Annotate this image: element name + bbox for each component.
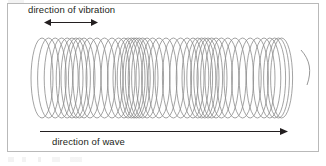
spring-coil: [51, 38, 73, 118]
spring-coil: [61, 38, 83, 118]
spring-coil: [210, 38, 232, 118]
spring-coil: [44, 38, 66, 118]
spring-coil: [162, 38, 184, 118]
wave-label: direction of wave: [52, 136, 125, 147]
figure-root: direction of vibration direction of wave: [0, 0, 326, 166]
spring-coil: [217, 38, 239, 118]
spring-coil: [148, 38, 170, 118]
spring-coil: [31, 38, 53, 118]
spring-coil-illustration: [0, 0, 326, 166]
page-bleed-artifact: [8, 157, 128, 162]
spring-coil: [170, 38, 192, 118]
spring-coil: [259, 38, 281, 118]
spring-free-end: [301, 50, 310, 85]
spring-coil: [246, 38, 268, 118]
